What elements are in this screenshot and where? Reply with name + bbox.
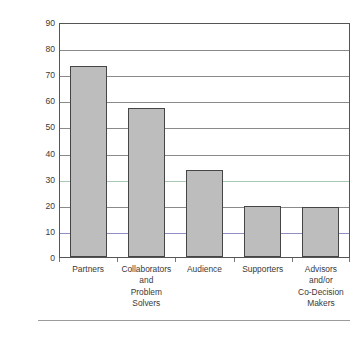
plot-area xyxy=(59,23,350,258)
y-tick-label: 90 xyxy=(31,18,55,28)
y-tick-label: 0 xyxy=(31,253,55,263)
y-tick-label: 20 xyxy=(31,201,55,211)
bar xyxy=(302,207,339,257)
x-category-label-line: and/or xyxy=(293,275,349,286)
bar-chart-figure: Percentage of the Families in Schools 01… xyxy=(0,0,362,337)
bar xyxy=(128,108,165,257)
x-category-label: Partners xyxy=(59,264,117,320)
x-category-label: Audience xyxy=(175,264,233,320)
x-tick-mark xyxy=(349,258,350,262)
y-tick-label: 60 xyxy=(31,96,55,106)
bar-series xyxy=(60,24,349,257)
y-tick-label: 80 xyxy=(31,44,55,54)
x-category-label: Supporters xyxy=(234,264,292,320)
x-axis-ticks xyxy=(59,258,350,262)
y-tick-label: 40 xyxy=(31,149,55,159)
bar xyxy=(186,170,223,257)
y-tick-label: 30 xyxy=(31,175,55,185)
x-tick-mark xyxy=(292,258,293,262)
x-axis-category-labels: PartnersCollaboratorsandProblemSolversAu… xyxy=(59,264,350,320)
x-category-label-line: and xyxy=(118,275,174,286)
y-tick-label: 50 xyxy=(31,122,55,132)
y-axis-tick-labels: 0102030405060708090 xyxy=(31,18,55,264)
x-category-label-line: Advisors xyxy=(293,264,349,275)
x-category-label-line: Partners xyxy=(60,264,116,275)
y-tick-label: 10 xyxy=(31,227,55,237)
footer-divider xyxy=(38,320,350,321)
x-category-label-line: Makers xyxy=(293,298,349,309)
bar xyxy=(244,206,281,257)
x-tick-mark xyxy=(234,258,235,262)
x-category-label-line: Supporters xyxy=(235,264,291,275)
x-category-label-line: Solvers xyxy=(118,298,174,309)
x-category-label: CollaboratorsandProblemSolvers xyxy=(117,264,175,320)
x-category-label-line: Collaborators xyxy=(118,264,174,275)
x-category-label-line: Problem xyxy=(118,287,174,298)
x-category-label: Advisorsand/orCo-DecisionMakers xyxy=(292,264,350,320)
x-category-label-line: Co-Decision xyxy=(293,287,349,298)
y-tick-label: 70 xyxy=(31,70,55,80)
x-tick-mark xyxy=(175,258,176,262)
x-tick-mark xyxy=(59,258,60,262)
x-tick-mark xyxy=(117,258,118,262)
bar xyxy=(70,66,107,257)
x-category-label-line: Audience xyxy=(176,264,232,275)
